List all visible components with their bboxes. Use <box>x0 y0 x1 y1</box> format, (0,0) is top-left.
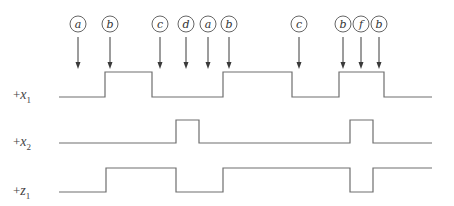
arrow-down-icon <box>377 62 382 69</box>
arrow-down-icon <box>227 62 232 69</box>
event-marker-a: a <box>200 16 216 69</box>
event-markers: abcdabcbfb <box>70 16 387 69</box>
signal-label: +z1 <box>13 183 30 201</box>
event-label: a <box>205 18 212 31</box>
event-marker-b: b <box>102 16 118 69</box>
event-label: c <box>296 18 302 31</box>
waveform <box>59 72 432 97</box>
event-label: b <box>106 18 113 31</box>
signal-x1: +x1 <box>13 72 432 105</box>
event-marker-c: c <box>291 16 307 69</box>
event-label: c <box>157 18 163 31</box>
arrow-down-icon <box>341 62 346 69</box>
event-marker-b: b <box>371 16 387 69</box>
signal-label: +x1 <box>13 87 31 105</box>
event-marker-a: a <box>70 16 86 69</box>
signal-z1: +z1 <box>13 168 432 201</box>
arrow-down-icon <box>297 62 302 69</box>
timing-diagram: abcdabcbfb +x1+x2+z1 <box>0 0 454 206</box>
signal-waveforms: +x1+x2+z1 <box>13 72 432 201</box>
signal-x2: +x2 <box>13 120 432 152</box>
arrow-down-icon <box>206 62 211 69</box>
arrow-down-icon <box>184 62 189 69</box>
event-label: a <box>75 18 82 31</box>
arrow-down-icon <box>108 62 113 69</box>
arrow-down-icon <box>158 62 163 69</box>
event-marker-c: c <box>152 16 168 69</box>
waveform <box>59 120 432 143</box>
event-label: b <box>225 18 232 31</box>
arrow-down-icon <box>359 62 364 69</box>
arrow-down-icon <box>76 62 81 69</box>
event-label: d <box>182 18 189 31</box>
event-marker-f: f <box>353 16 369 69</box>
event-label: b <box>339 18 346 31</box>
event-marker-b: b <box>221 16 237 69</box>
event-label: b <box>375 18 382 31</box>
event-marker-b: b <box>335 16 351 69</box>
waveform <box>59 168 432 192</box>
signal-label: +x2 <box>13 134 31 152</box>
event-marker-d: d <box>178 16 194 69</box>
